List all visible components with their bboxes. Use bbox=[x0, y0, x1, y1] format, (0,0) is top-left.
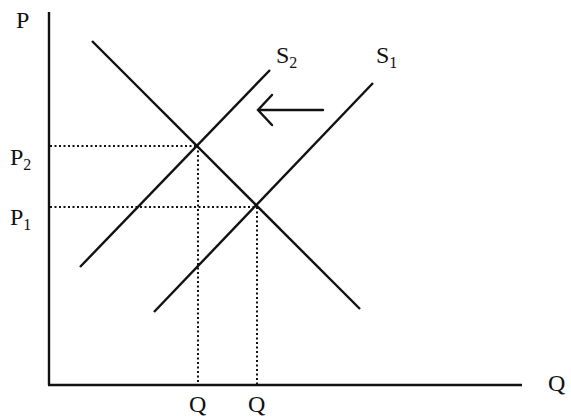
demand-curve bbox=[92, 41, 360, 309]
x-axis-label: Q bbox=[548, 370, 565, 396]
p2-sub: 2 bbox=[23, 156, 31, 173]
q2-label: Q bbox=[189, 391, 206, 416]
p2-base: P bbox=[10, 144, 23, 170]
supply-curve-s2 bbox=[80, 70, 270, 267]
supply-demand-diagram: P Q S2 S1 P2 P1 Q Q bbox=[0, 0, 571, 416]
s2-sub: 2 bbox=[289, 54, 297, 71]
s1-sub: 1 bbox=[389, 54, 397, 71]
q1-label: Q bbox=[248, 391, 265, 416]
s1-label: S1 bbox=[376, 42, 397, 71]
p1-base: P bbox=[10, 204, 23, 230]
p1-sub: 1 bbox=[23, 216, 31, 233]
p1-label: P1 bbox=[10, 204, 31, 233]
left-arrow-icon bbox=[258, 95, 323, 125]
s2-label: S2 bbox=[276, 42, 297, 71]
s1-base: S bbox=[376, 42, 389, 68]
p2-label: P2 bbox=[10, 144, 31, 173]
y-axis-label: P bbox=[16, 7, 29, 33]
s2-base: S bbox=[276, 42, 289, 68]
